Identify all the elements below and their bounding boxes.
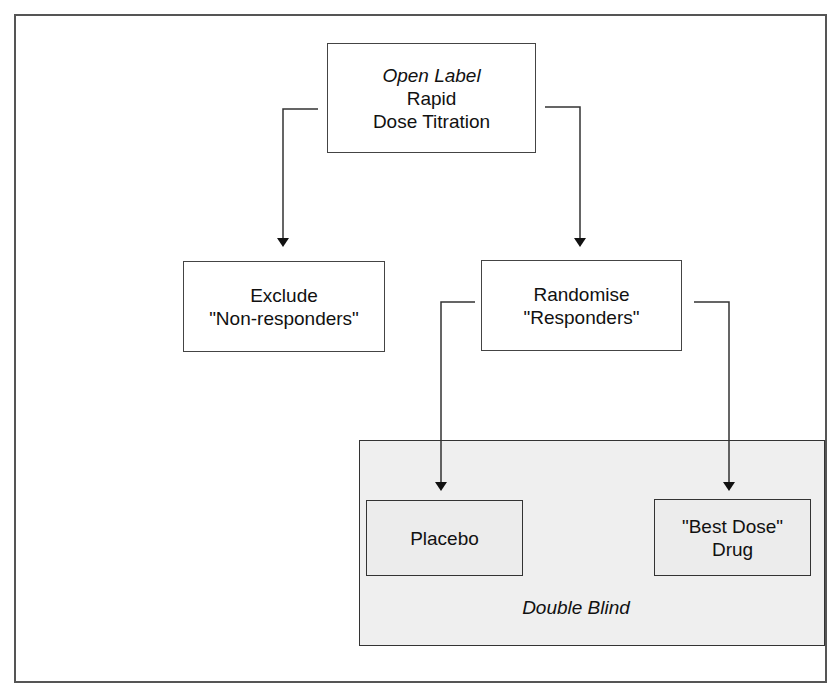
edge-randomise-to-placebo [441,302,475,482]
node-start-line2: Rapid [407,87,457,110]
node-best-dose-drug: "Best Dose" Drug [654,499,811,576]
node-randomise-line2: "Responders" [524,306,640,329]
node-placebo: Placebo [366,500,523,576]
node-drug-line1: "Best Dose" [682,515,783,538]
node-randomise-line1: Randomise [533,283,629,306]
node-exclude-line1: Exclude [250,284,318,307]
arrowhead-icon [723,482,735,491]
node-drug-line2: Drug [712,538,753,561]
node-placebo-line1: Placebo [410,527,479,550]
edge-start-to-randomise [545,107,580,238]
arrowhead-icon [277,238,289,247]
arrowhead-icon [435,482,447,491]
edge-randomise-to-drug [694,302,729,482]
node-randomise: Randomise "Responders" [481,260,682,351]
edge-start-to-exclude [283,109,318,238]
node-exclude-line2: "Non-responders" [209,307,359,330]
arrowhead-icon [574,238,586,247]
node-exclude: Exclude "Non-responders" [183,261,385,352]
node-open-label-titration: Open Label Rapid Dose Titration [327,43,536,153]
node-start-line1: Open Label [382,64,480,87]
node-start-line3: Dose Titration [373,110,490,133]
double-blind-label: Double Blind [476,597,676,623]
